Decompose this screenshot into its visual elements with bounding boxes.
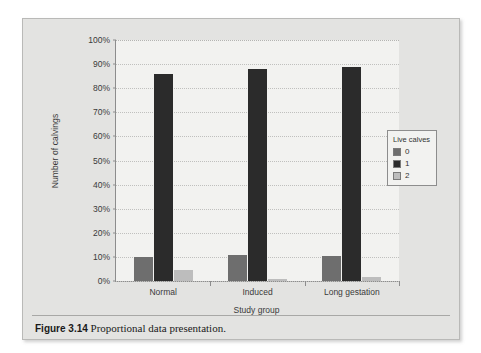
gridline — [116, 281, 399, 282]
plot-area: 0%10%20%30%40%50%60%70%80%90%100% Normal… — [115, 40, 399, 282]
y-axis-tick-label: 90% — [93, 59, 110, 69]
y-axis-tick-label: 0% — [98, 276, 110, 286]
bar — [268, 279, 287, 281]
screenshot-page: Number of calvings 0%10%20%30%40%50%60%7… — [0, 0, 481, 353]
figure-caption: Figure 3.14 Proportional data presentati… — [35, 322, 445, 334]
legend-rows: 012 — [393, 148, 432, 180]
x-axis-tick-mark — [210, 281, 211, 286]
legend-item-label: 2 — [405, 172, 409, 180]
bar — [154, 74, 173, 281]
x-axis-category-label: Long gestation — [324, 287, 380, 297]
x-axis-title: Study group — [115, 305, 398, 315]
bar — [322, 256, 341, 281]
bar — [174, 270, 193, 281]
figure-card: Number of calvings 0%10%20%30%40%50%60%7… — [22, 18, 460, 340]
figure-caption-label: Figure 3.14 — [35, 323, 88, 334]
bar — [362, 277, 381, 281]
legend-item: 2 — [393, 172, 432, 180]
legend-swatch-icon — [393, 172, 401, 180]
legend-item-label: 1 — [405, 160, 409, 168]
legend-item-label: 0 — [405, 148, 409, 156]
caption-divider — [32, 315, 450, 316]
bar — [134, 257, 153, 281]
bar-group — [116, 40, 210, 281]
x-axis-tick-mark — [305, 281, 306, 286]
bar — [342, 67, 361, 281]
bar — [248, 69, 267, 281]
y-axis-title: Number of calvings — [50, 96, 60, 206]
y-axis-tick-label: 30% — [93, 204, 110, 214]
y-axis-tick-label: 60% — [93, 131, 110, 141]
legend-item: 0 — [393, 148, 432, 156]
chart-area: Number of calvings 0%10%20%30%40%50%60%7… — [31, 26, 451, 308]
x-axis-category-label: Normal — [149, 287, 176, 297]
y-axis-tick-label: 50% — [93, 156, 110, 166]
x-axis-category-label: Induced — [242, 287, 272, 297]
y-axis-tick-label: 70% — [93, 107, 110, 117]
y-axis-tick-label: 100% — [88, 35, 110, 45]
figure-caption-text: Proportional data presentation. — [91, 322, 226, 334]
legend: Live calves 012 — [387, 130, 437, 186]
bar-group — [210, 40, 304, 281]
legend-swatch-icon — [393, 160, 401, 168]
bars-layer — [116, 40, 399, 281]
y-axis-tick-label: 40% — [93, 180, 110, 190]
y-axis-tick-label: 10% — [93, 252, 110, 262]
bar-group — [305, 40, 399, 281]
legend-title: Live calves — [393, 135, 432, 144]
y-axis-tick-label: 80% — [93, 83, 110, 93]
bar — [228, 255, 247, 282]
x-axis-tick-mark — [399, 281, 400, 286]
legend-item: 1 — [393, 160, 432, 168]
legend-swatch-icon — [393, 148, 401, 156]
y-axis-tick-label: 20% — [93, 228, 110, 238]
